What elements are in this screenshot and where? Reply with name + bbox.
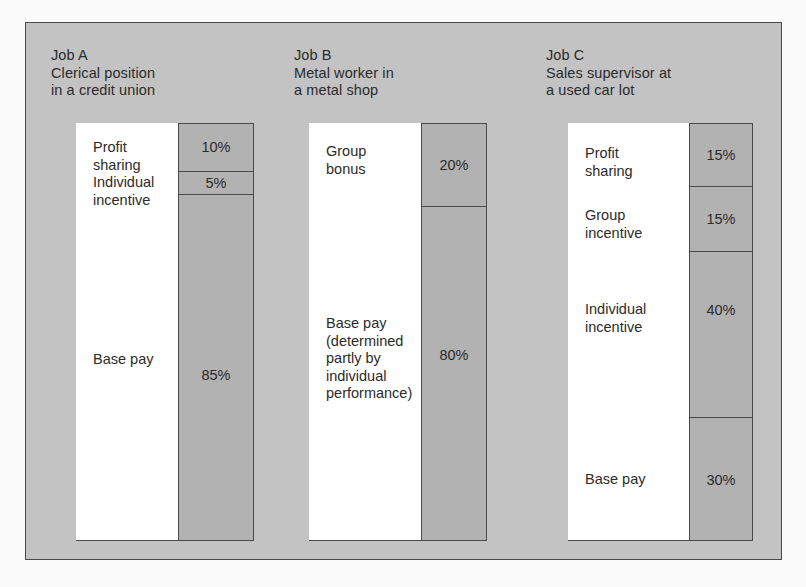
bar-segment-value: 85% (201, 367, 230, 384)
bar-segment-group-incentive: 15% (690, 187, 752, 252)
bar-segment-individual-incentive: 40% (690, 252, 752, 418)
chart-column-job-c: Job C Sales supervisor at a used car lot… (546, 23, 796, 559)
column-header-job-b: Job B Metal worker in a metal shop (294, 47, 394, 100)
bar-segment-base-pay: 85% (179, 195, 253, 540)
segment-label-individual-incentive: Individual incentive (585, 301, 683, 336)
chart-panel: Job A Clerical position in a credit unio… (25, 22, 782, 560)
bar-segment-value: 15% (706, 211, 735, 228)
segment-label-base-pay: Base pay (determined partly by individua… (326, 315, 423, 403)
bar-segment-value: 40% (706, 302, 735, 319)
bar-segment-profit-sharing: 15% (690, 124, 752, 187)
figure-root: Job A Clerical position in a credit unio… (0, 0, 806, 587)
bar-segment-value: 10% (201, 139, 230, 156)
column-header-job-c: Job C Sales supervisor at a used car lot (546, 47, 671, 100)
label-box-job-b: Group bonus Base pay (determined partly … (309, 123, 429, 541)
stacked-bar-job-b: 20% 80% (421, 123, 487, 541)
stacked-bar-job-c: 15% 15% 40% 30% (689, 123, 753, 541)
chart-column-job-b: Job B Metal worker in a metal shop Group… (294, 23, 544, 559)
segment-label-base-pay: Base pay (585, 471, 683, 489)
bar-segment-base-pay: 30% (690, 418, 752, 540)
chart-column-job-a: Job A Clerical position in a credit unio… (51, 23, 301, 559)
bar-segment-value: 20% (439, 157, 468, 174)
column-header-job-a: Job A Clerical position in a credit unio… (51, 47, 155, 100)
bar-segment-value: 80% (439, 347, 468, 364)
stacked-bar-job-a: 10% 5% 85% (178, 123, 254, 541)
bar-segment-value: 15% (706, 147, 735, 164)
bar-segment-value: 5% (206, 175, 227, 192)
bar-segment-base-pay: 80% (422, 207, 486, 540)
segment-label-profit-sharing: Profit sharing (585, 145, 683, 180)
bar-segment-profit-sharing: 10% (179, 124, 253, 172)
bar-segment-group-bonus: 20% (422, 124, 486, 207)
bar-segment-value: 30% (706, 472, 735, 489)
bar-segment-individual-incentive: 5% (179, 172, 253, 195)
segment-label-group-incentive: Group incentive (585, 207, 683, 242)
label-box-job-c: Profit sharing Group incentive Individua… (568, 123, 689, 541)
segment-label-group-bonus: Group bonus (326, 143, 423, 178)
